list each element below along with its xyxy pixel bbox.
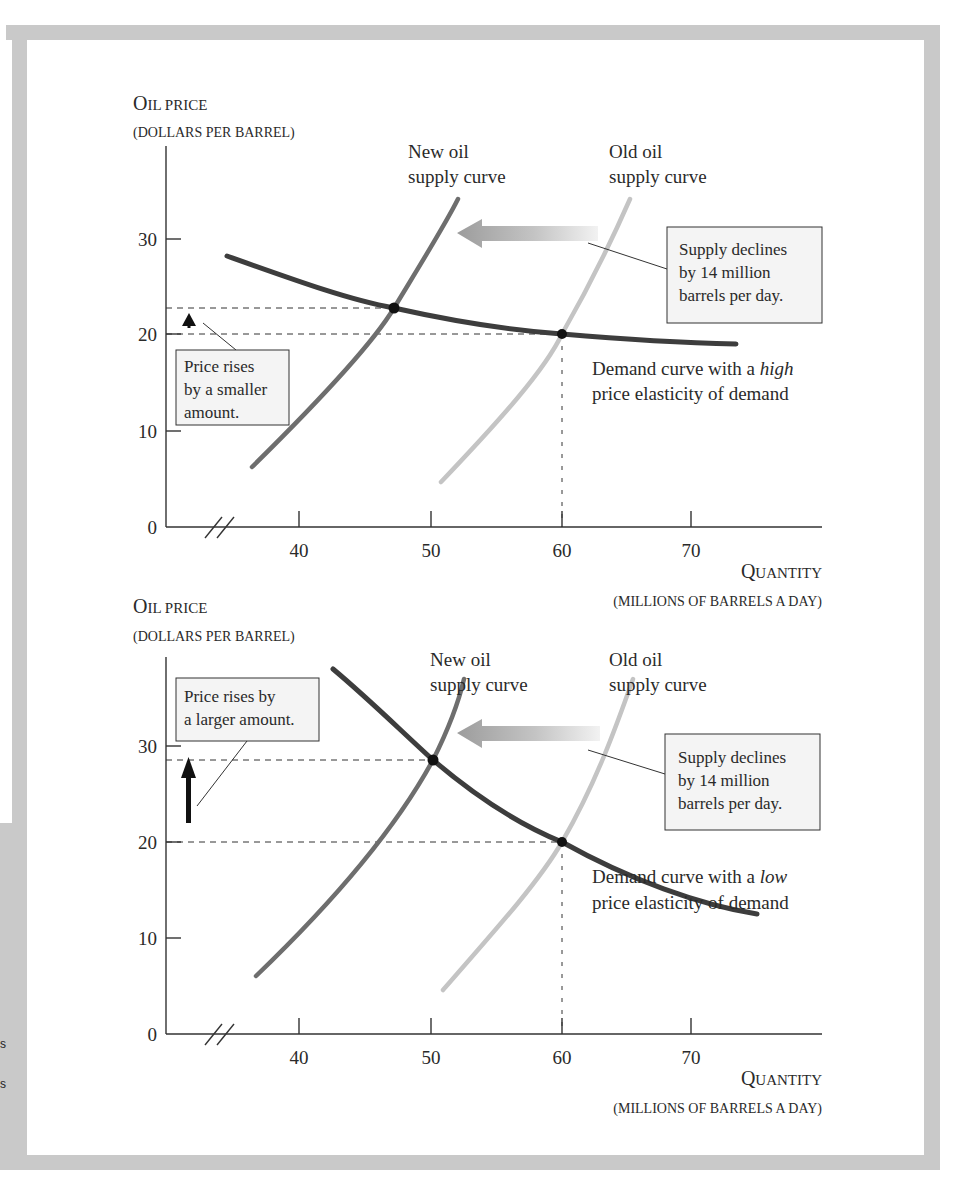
demand-label-emphasis: low [760, 866, 788, 887]
old-supply-label: Old oil [609, 141, 662, 162]
x-axis-title: QUANTITY [741, 1067, 822, 1089]
price-box-leader [197, 741, 247, 806]
y-tick-label: 0 [148, 517, 158, 538]
y-tick-label: 0 [148, 1024, 158, 1045]
x-tick-labels: 40 50 60 70 [290, 1047, 701, 1068]
old-equilibrium-point [557, 837, 567, 847]
x-tick-labels: 40 50 60 70 [290, 540, 701, 561]
price-box-text: Price rises by [184, 687, 276, 706]
price-box-text: by a smaller [184, 380, 267, 399]
old-supply-label: supply curve [609, 166, 707, 187]
guide-lines [166, 760, 562, 1034]
x-tick-label: 40 [290, 1047, 309, 1068]
price-box-text: amount. [184, 403, 239, 422]
x-axis-title: QUANTITY [741, 560, 822, 582]
y-axis-title-rest: IL PRICE [147, 97, 207, 113]
shift-box-text: Supply declines [679, 240, 787, 259]
price-rise-arrow-shaft [188, 324, 191, 328]
shift-box-text: Supply declines [678, 748, 786, 767]
price-box-text: a larger amount. [184, 710, 295, 729]
y-axis-subtitle: (DOLLARS PER BARREL) [133, 629, 295, 645]
price-rise-arrow-shaft [186, 775, 191, 823]
demand-curve-label: price elasticity of demand [592, 383, 789, 404]
y-axis-title-rest: IL PRICE [147, 600, 207, 616]
y-tick-label: 10 [138, 421, 157, 442]
chart-panel-low-elasticity: OIL PRICE (DOLLARS PER BARREL) 0 10 20 3… [133, 595, 822, 1117]
shift-box-text: barrels per day. [678, 794, 782, 813]
x-axis-subtitle: (MILLIONS OF BARRELS A DAY) [613, 594, 822, 610]
supply-shift-arrow [457, 219, 598, 248]
chart-panel-high-elasticity: OIL PRICE (DOLLARS PER BARREL) 0 10 20 3… [133, 92, 822, 610]
y-tick-label: 20 [138, 324, 157, 345]
new-supply-label: New oil [430, 649, 491, 670]
demand-label-text: Demand curve with a [592, 866, 760, 887]
new-supply-label: supply curve [430, 674, 528, 695]
old-supply-label: supply curve [609, 674, 707, 695]
old-supply-curve [441, 199, 630, 482]
y-axis-title-cap: O [133, 92, 147, 114]
y-tick-label: 30 [138, 229, 157, 250]
x-tick-label: 50 [422, 540, 441, 561]
shift-box-text: barrels per day. [679, 286, 783, 305]
x-tick-label: 70 [682, 1047, 701, 1068]
x-tick-label: 40 [290, 540, 309, 561]
x-tick-label: 50 [422, 1047, 441, 1068]
x-axis-subtitle: (MILLIONS OF BARRELS A DAY) [613, 1101, 822, 1117]
x-axis-title-rest: UANTITY [755, 1072, 822, 1088]
chart-canvas: OIL PRICE (DOLLARS PER BARREL) 0 10 20 3… [0, 0, 954, 1185]
y-tick-label: 10 [138, 928, 157, 949]
y-tick-labels: 0 10 20 30 [138, 229, 157, 538]
x-tick-label: 70 [682, 540, 701, 561]
x-tick-label: 60 [553, 1047, 572, 1068]
shift-box-text: by 14 million [679, 263, 771, 282]
y-axis-title: OIL PRICE [133, 92, 207, 114]
price-box-text: Price rises [184, 357, 254, 376]
y-axis-title: OIL PRICE [133, 595, 207, 617]
demand-curve-label: Demand curve with a low [592, 866, 788, 887]
new-supply-curve [252, 199, 458, 467]
y-tick-labels: 0 10 20 30 [138, 736, 157, 1045]
y-axis-title-cap: O [133, 595, 147, 617]
x-tick-label: 60 [553, 540, 572, 561]
x-axis-title-cap: Q [741, 1067, 756, 1089]
supply-shift-arrow [457, 719, 600, 748]
y-axis-subtitle: (DOLLARS PER BARREL) [133, 125, 295, 141]
price-box-leader [203, 323, 236, 350]
demand-label-emphasis: high [760, 358, 794, 379]
new-supply-label: New oil [408, 141, 469, 162]
new-equilibrium-point [389, 303, 400, 314]
demand-curve-label: Demand curve with a high [592, 358, 794, 379]
old-equilibrium-point [557, 329, 567, 339]
old-supply-label: Old oil [609, 649, 662, 670]
demand-curve-high-elasticity [227, 256, 736, 344]
new-equilibrium-point [428, 755, 439, 766]
demand-label-text: Demand curve with a [592, 358, 760, 379]
x-axis-title-rest: UANTITY [755, 565, 822, 581]
new-supply-label: supply curve [408, 166, 506, 187]
y-tick-label: 30 [138, 736, 157, 757]
x-axis-title-cap: Q [741, 560, 756, 582]
shift-box-text: by 14 million [678, 771, 770, 790]
demand-curve-label: price elasticity of demand [592, 892, 789, 913]
y-tick-label: 20 [138, 832, 157, 853]
